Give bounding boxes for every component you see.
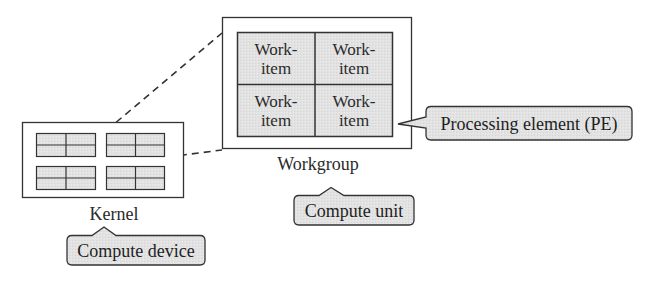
svg-text:item: item [261, 111, 291, 130]
svg-text:Work-: Work- [332, 92, 375, 111]
processing-element-callout: Processing element (PE) [398, 107, 632, 141]
compute-device-label: Compute device [77, 241, 194, 261]
svg-text:Work-: Work- [332, 40, 375, 59]
svg-text:item: item [261, 59, 291, 78]
svg-text:Work-: Work- [254, 92, 297, 111]
diagram-canvas: Kernel Compute device Work- item Work- i… [0, 0, 655, 281]
dashed-line-top [107, 33, 222, 130]
compute-unit-callout: Compute unit [294, 188, 414, 226]
workgroup-box: Work- item Work- item Work- item Work- i… [223, 18, 412, 149]
processing-element-label: Processing element (PE) [441, 114, 618, 135]
kernel-workgroup-3 [37, 167, 96, 190]
compute-unit-label: Compute unit [305, 201, 404, 221]
svg-text:Work-: Work- [254, 40, 297, 59]
kernel-workgroup-4 [107, 167, 165, 190]
workgroup-label: Workgroup [277, 154, 359, 174]
svg-text:item: item [339, 59, 369, 78]
compute-device-callout: Compute device [67, 227, 205, 265]
svg-text:item: item [339, 111, 369, 130]
kernel-box [23, 123, 184, 198]
kernel-workgroup-2 [107, 134, 165, 157]
kernel-label: Kernel [90, 204, 139, 224]
kernel-workgroup-1 [37, 134, 96, 157]
